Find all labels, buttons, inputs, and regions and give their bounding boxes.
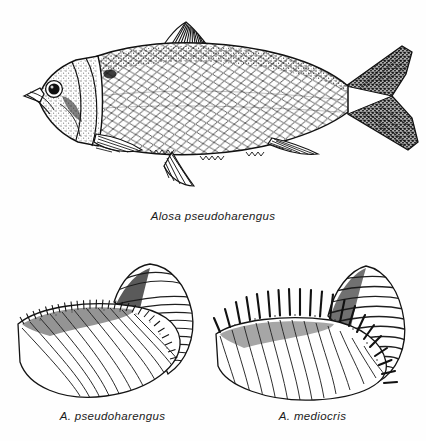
caption-gill-arch-right: A. mediocris [215, 410, 410, 422]
gill-arch-lower-limb-left [18, 304, 180, 398]
anal-fin [268, 138, 318, 154]
illustration-plate: Alosa pseudoharengus [0, 0, 426, 441]
caption-gill-arch-left: A. pseudoharengus [20, 410, 205, 422]
fish-body-group [24, 22, 418, 186]
caudal-fin [346, 46, 418, 150]
eye [46, 81, 63, 98]
shoulder-spot [104, 69, 117, 78]
fish-illustration [0, 0, 426, 200]
pelvic-fin [164, 152, 194, 186]
gill-arch-right-illustration [210, 262, 420, 407]
gill-arch-left-illustration [10, 262, 215, 407]
gill-arch-lower-limb-right [216, 318, 386, 402]
caption-fish: Alosa pseudoharengus [0, 210, 426, 222]
